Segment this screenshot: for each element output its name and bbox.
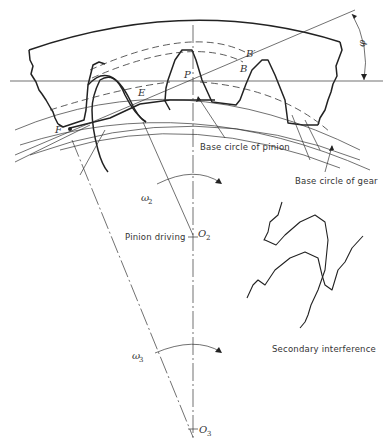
annotation-secondary-interference: Secondary interference	[272, 344, 376, 354]
point-F	[68, 127, 72, 131]
label-B-prime: B′	[245, 48, 256, 59]
gear-left-break	[29, 50, 58, 124]
label-O2: O	[198, 228, 206, 239]
radius-line-E	[143, 122, 193, 235]
phi-arrow-bottom	[361, 74, 367, 80]
omega3-arrowhead	[215, 347, 222, 353]
line-of-action	[15, 10, 355, 155]
label-B: B	[239, 63, 247, 74]
gear-outer-rim	[29, 20, 340, 50]
annotation-base-circle-gear: Base circle of gear	[295, 176, 378, 186]
annotation-base-circle-pinion: Base circle of pinion	[200, 142, 290, 152]
pitch-dashed-left	[50, 82, 170, 110]
label-omega2-sub: 2	[148, 198, 152, 206]
label-omega3-sub: 3	[139, 356, 143, 364]
label-O3-sub: 3	[207, 430, 211, 438]
addendum-circle-dashed-1	[90, 42, 245, 70]
label-O2-sub: 2	[206, 234, 210, 242]
center-line-slanted	[72, 140, 193, 437]
secondary-pinion-tooth	[247, 236, 363, 298]
addendum-circle-dashed-2	[92, 52, 243, 78]
leader-line-1	[292, 115, 310, 160]
gear-right-break	[318, 42, 342, 125]
secondary-gear-tooth	[264, 202, 328, 328]
omega2-arrowhead	[215, 178, 222, 184]
gear-interference-diagram: φ B′ B P E F Base circle of pinion Base …	[0, 0, 383, 445]
annotation-pinion-driving: Pinion driving	[125, 232, 186, 242]
label-E: E	[137, 87, 146, 98]
contact-segment-FE	[70, 104, 140, 128]
omega3-arc	[155, 344, 221, 353]
phi-label: φ	[356, 40, 367, 47]
label-O3: O	[199, 424, 207, 435]
label-P: P	[183, 69, 191, 80]
gear-leader-arrow	[329, 145, 334, 151]
phi-arrow-top	[352, 14, 357, 19]
label-F: F	[54, 124, 63, 135]
